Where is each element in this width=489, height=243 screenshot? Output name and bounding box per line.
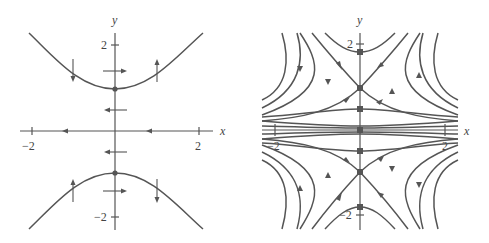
arrow-left-head — [104, 108, 110, 113]
arrow-head-icon — [389, 88, 395, 94]
arrow-head-icon — [325, 172, 331, 178]
arrow-head-icon — [416, 182, 422, 188]
arrow-left-icon — [146, 129, 152, 134]
y-axis-label: y — [111, 13, 118, 27]
x-tick-label-neg2: −2 — [22, 139, 35, 153]
arrow-up-head — [155, 59, 160, 65]
arrow-down-head — [71, 76, 76, 82]
saddle-point-lower — [357, 169, 363, 175]
arrow-head-icon — [336, 192, 342, 201]
arrow-up-head — [71, 179, 76, 185]
arrow-head-icon — [325, 79, 331, 85]
lower-nullcline — [29, 173, 203, 229]
x-axis-label: x — [463, 124, 470, 138]
y-tick-label-2: 2 — [101, 38, 107, 52]
equilibrium-point-lower — [112, 170, 117, 175]
equilibrium-point-upper — [112, 86, 117, 91]
arrow-left-head — [104, 150, 110, 155]
y-axis-label: y — [356, 13, 363, 27]
phase-portrait-plot: −2 2 2 −2 y x — [245, 0, 489, 243]
trajectory — [262, 33, 286, 100]
trajectory — [405, 145, 458, 229]
marker-point — [357, 127, 363, 133]
trajectory — [262, 160, 286, 229]
marker-point — [357, 148, 363, 154]
arrow-down-head — [155, 197, 160, 203]
saddle-point-upper — [357, 85, 363, 91]
x-axis-label: x — [219, 124, 226, 138]
trajectory — [262, 145, 315, 229]
arrow-right-head — [121, 189, 127, 194]
trajectory — [434, 33, 458, 100]
arrow-head-icon — [389, 166, 395, 172]
marker-point — [357, 204, 363, 210]
phase-portrait-svg: −2 2 2 −2 y x — [245, 0, 489, 243]
nullcline-svg: −2 2 2 −2 y x — [0, 0, 245, 243]
upper-nullcline — [29, 33, 203, 89]
trajectory — [434, 160, 458, 229]
nullcline-plot: −2 2 2 −2 y x — [0, 0, 245, 243]
arrow-left-icon — [62, 129, 68, 134]
arrow-head-icon — [416, 72, 422, 78]
y-tick-label-neg2: −2 — [94, 210, 107, 224]
marker-point — [357, 106, 363, 112]
y-tick-label-2: 2 — [347, 37, 353, 51]
trajectory — [262, 33, 315, 115]
x-tick-label-2: 2 — [195, 139, 201, 153]
arrow-right-head — [121, 69, 127, 74]
marker-point — [357, 49, 363, 55]
trajectory — [405, 33, 458, 115]
